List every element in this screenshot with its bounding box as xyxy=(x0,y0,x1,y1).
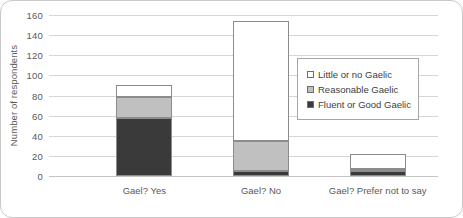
legend-item-label: Reasonable Gaelic xyxy=(318,84,398,95)
y-tick-label-80: 80 xyxy=(32,90,43,101)
y-axis-title: Number of respondents xyxy=(7,15,21,176)
legend-item[interactable]: Fluent or Good Gaelic xyxy=(307,97,418,111)
y-tick-label-160: 160 xyxy=(27,10,43,21)
y-tick-label-140: 140 xyxy=(27,30,43,41)
gridline-0 xyxy=(49,176,438,177)
bar-segment[interactable] xyxy=(116,97,172,118)
bar-segment[interactable] xyxy=(233,21,289,141)
bar-segment[interactable] xyxy=(350,171,406,176)
legend-item-label: Little or no Gaelic xyxy=(318,69,392,80)
x-tick-label: Gael? No xyxy=(241,185,281,196)
legend-swatch-icon xyxy=(307,86,314,93)
x-tick-label: Gael? Yes xyxy=(123,185,166,196)
legend-item[interactable]: Little or no Gaelic xyxy=(307,67,418,81)
bar-segment[interactable] xyxy=(233,141,289,171)
legend-item-label: Fluent or Good Gaelic xyxy=(318,99,411,110)
y-tick-label-0: 0 xyxy=(38,171,43,182)
bar-group[interactable]: Gael? Yes xyxy=(116,85,172,176)
bar-group[interactable]: Gael? No xyxy=(233,21,289,176)
y-tick-label-60: 60 xyxy=(32,110,43,121)
legend-swatch-icon xyxy=(307,71,314,78)
y-tick-label-100: 100 xyxy=(27,70,43,81)
bar-segment[interactable] xyxy=(116,118,172,176)
legend-swatch-icon xyxy=(307,101,314,108)
bar-segment[interactable] xyxy=(116,85,172,96)
bar-group[interactable]: Gael? Prefer not to say xyxy=(350,154,406,176)
bar-segment[interactable] xyxy=(233,171,289,176)
gridline-160 xyxy=(49,15,438,16)
y-axis-title-label: Number of respondents xyxy=(9,45,20,146)
y-tick-label-120: 120 xyxy=(27,50,43,61)
y-tick-label-40: 40 xyxy=(32,130,43,141)
y-tick-label-20: 20 xyxy=(32,150,43,161)
legend-item[interactable]: Reasonable Gaelic xyxy=(307,82,418,96)
chart-container: Number of respondents 160140120100806040… xyxy=(0,0,463,218)
bar-segment[interactable] xyxy=(350,169,406,171)
x-tick-label: Gael? Prefer not to say xyxy=(329,185,427,196)
chart-legend: Little or no GaelicReasonable GaelicFlue… xyxy=(297,58,419,120)
bar-segment[interactable] xyxy=(350,154,406,169)
